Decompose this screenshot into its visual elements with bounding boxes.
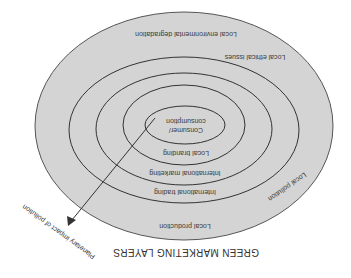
- label-local-branding: Local branding: [163, 149, 209, 157]
- green-marketing-diagram: Local environmental degradation Local et…: [0, 0, 351, 278]
- diagram-title: GREEN MARKETING LAYERS: [113, 247, 259, 258]
- label-international-trading: International trading: [154, 188, 216, 196]
- label-consumption: consumption: [166, 117, 206, 125]
- label-consumer: Consumer/: [169, 127, 203, 134]
- layer-outer: [35, 12, 333, 240]
- label-local-env-degradation: Local environmental degradation: [135, 30, 237, 38]
- label-local-production: Local production: [159, 222, 210, 230]
- label-local-ethical-issues: Local ethical issues: [224, 54, 285, 61]
- label-international-marketing: International marketing: [149, 169, 220, 177]
